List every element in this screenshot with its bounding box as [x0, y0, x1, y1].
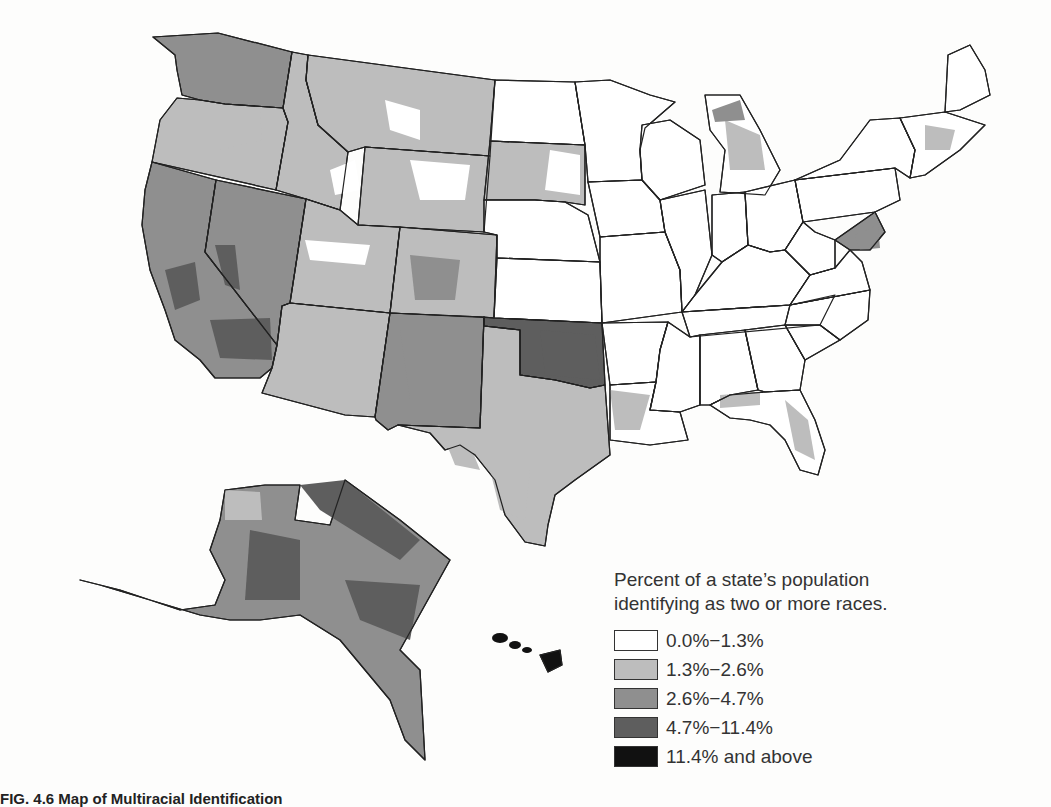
legend-swatch	[614, 717, 658, 738]
region-hawaii-island	[509, 641, 521, 649]
legend-swatch	[614, 659, 658, 680]
region-kansas	[494, 258, 602, 323]
county-cluster	[245, 530, 300, 600]
region-missouri	[600, 232, 682, 323]
county-cluster	[210, 318, 272, 360]
region-maine	[945, 45, 990, 112]
figure-caption: FIG. 4.6 Map of Multiracial Identificati…	[0, 790, 283, 807]
legend-swatch	[614, 746, 658, 767]
region-hawaii-island	[522, 647, 532, 653]
legend-title: Percent of a state’s population identify…	[614, 568, 914, 616]
legend-item: 11.4% and above	[614, 742, 914, 771]
region-new-york	[795, 118, 915, 180]
county-cluster	[490, 470, 530, 520]
county-cluster	[505, 95, 565, 135]
county-cluster	[540, 330, 600, 380]
county-cluster	[410, 160, 470, 200]
legend-label: 2.6%−4.7%	[666, 688, 764, 710]
region-nebraska	[484, 200, 600, 262]
legend-item: 4.7%−11.4%	[614, 713, 914, 742]
county-cluster	[400, 330, 470, 400]
region-washington	[153, 33, 292, 108]
legend-label: 1.3%−2.6%	[666, 659, 764, 681]
legend-label: 0.0%−1.3%	[666, 630, 764, 652]
region-arizona	[262, 303, 390, 417]
legend-item: 0.0%−1.3%	[614, 626, 914, 655]
region-hawaii-island	[492, 633, 508, 643]
county-cluster	[225, 490, 262, 520]
legend-label: 11.4% and above	[666, 746, 813, 768]
county-cluster	[545, 150, 580, 195]
legend-item: 2.6%−4.7%	[614, 684, 914, 713]
map-legend: Percent of a state’s population identify…	[614, 568, 914, 771]
legend-label: 4.7%−11.4%	[666, 717, 773, 739]
legend-item: 1.3%−2.6%	[614, 655, 914, 684]
county-cluster	[410, 255, 460, 300]
legend-swatch	[614, 630, 658, 651]
legend-swatch	[614, 688, 658, 709]
